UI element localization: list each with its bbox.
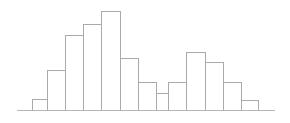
histogram-bar	[48, 71, 66, 111]
histogram-bar	[102, 12, 121, 111]
histogram-bar	[139, 83, 157, 111]
histogram-bar	[206, 63, 224, 111]
histogram-bar	[121, 59, 139, 111]
histogram-bar	[66, 36, 84, 111]
histogram-bars	[33, 12, 259, 111]
histogram-chart	[0, 0, 290, 123]
histogram-svg	[0, 0, 290, 123]
histogram-bar	[187, 53, 206, 111]
histogram-bar	[224, 83, 242, 111]
histogram-bar	[157, 94, 169, 111]
histogram-bar	[33, 100, 48, 111]
histogram-bar	[242, 101, 259, 111]
histogram-bar	[169, 83, 187, 111]
histogram-bar	[84, 25, 102, 111]
